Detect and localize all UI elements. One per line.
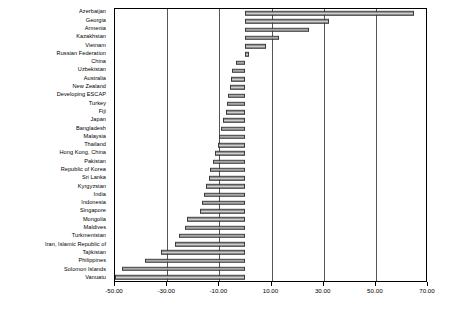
bar-row	[115, 34, 426, 42]
bar	[236, 60, 245, 64]
category-label: Vietnam	[0, 41, 110, 49]
bar	[210, 168, 245, 172]
bar-row	[115, 240, 426, 248]
bar-row	[115, 191, 426, 199]
bar-series	[115, 9, 426, 281]
axis-tick	[323, 282, 324, 286]
bar-row	[115, 75, 426, 83]
bar	[232, 69, 245, 73]
bar	[231, 77, 245, 81]
category-label: Tajikistan	[0, 249, 110, 257]
bar	[122, 267, 246, 271]
axis-tick-label: 30.00	[315, 287, 330, 294]
bar	[219, 135, 245, 139]
category-label: Singapore	[0, 207, 110, 215]
bar	[245, 19, 328, 23]
bar	[218, 143, 245, 147]
bar	[245, 44, 266, 48]
bar-row	[115, 199, 426, 207]
axis-tick-label: -30.00	[157, 287, 175, 294]
category-label: Mongolia	[0, 215, 110, 223]
category-label: Kazakhstan	[0, 33, 110, 41]
bar-row	[115, 67, 426, 75]
category-label: Vanuatu	[0, 274, 110, 282]
bar	[227, 102, 245, 106]
bar-row	[115, 174, 426, 182]
category-label: Uzbekistan	[0, 66, 110, 74]
bar-row	[115, 17, 426, 25]
category-label: Thailand	[0, 141, 110, 149]
bar	[204, 192, 246, 196]
bar	[179, 234, 246, 238]
category-label: Developing ESCAP	[0, 91, 110, 99]
bar	[245, 52, 249, 56]
bar	[206, 184, 245, 188]
category-label: Armenia	[0, 25, 110, 33]
bar-row	[115, 133, 426, 141]
category-label: Republic of Korea	[0, 166, 110, 174]
bar	[209, 176, 246, 180]
bar	[202, 201, 245, 205]
bar-chart: AzerbaijanGeorgiaArmeniaKazakhstanVietna…	[0, 0, 453, 315]
bar-row	[115, 42, 426, 50]
axis-tick	[375, 282, 376, 286]
bar	[175, 242, 245, 246]
bar-row	[115, 166, 426, 174]
bar	[221, 126, 246, 130]
category-label: Azerbaijan	[0, 8, 110, 16]
category-label: India	[0, 191, 110, 199]
bar-row	[115, 257, 426, 265]
bar	[230, 85, 246, 89]
bar	[187, 217, 246, 221]
bar-row	[115, 224, 426, 232]
category-axis-labels: AzerbaijanGeorgiaArmeniaKazakhstanVietna…	[0, 8, 110, 282]
bar-row	[115, 26, 426, 34]
category-label: China	[0, 58, 110, 66]
axis-tick-label: -50.00	[105, 287, 123, 294]
bar	[228, 93, 245, 97]
axis-tick	[218, 282, 219, 286]
bar	[115, 275, 245, 279]
bar-row	[115, 158, 426, 166]
plot-area	[114, 8, 427, 282]
bar-row	[115, 50, 426, 58]
category-label: Indonesia	[0, 199, 110, 207]
bar-row	[115, 248, 426, 256]
axis-tick-label: 50.00	[367, 287, 382, 294]
category-label: New Zealand	[0, 83, 110, 91]
bar-row	[115, 265, 426, 273]
bar-row	[115, 100, 426, 108]
bar-row	[115, 125, 426, 133]
bar-row	[115, 116, 426, 124]
bar	[245, 36, 279, 40]
bar	[213, 159, 246, 163]
bar	[215, 151, 245, 155]
category-label: Pakistan	[0, 157, 110, 165]
category-label: Philippines	[0, 257, 110, 265]
axis-tick-label: 70.00	[419, 287, 434, 294]
category-label: Solomon Islands	[0, 265, 110, 273]
bar	[185, 225, 245, 229]
bar	[223, 118, 245, 122]
bar-row	[115, 182, 426, 190]
bar-row	[115, 59, 426, 67]
category-label: Turkey	[0, 99, 110, 107]
category-label: Malaysia	[0, 132, 110, 140]
category-label: Japan	[0, 116, 110, 124]
bar	[245, 27, 309, 31]
bar-row	[115, 149, 426, 157]
category-label: Bangladesh	[0, 124, 110, 132]
bar-row	[115, 141, 426, 149]
bar-row	[115, 215, 426, 223]
bar-row	[115, 108, 426, 116]
category-label: Turkmenistan	[0, 232, 110, 240]
category-label: Russian Federation	[0, 49, 110, 57]
axis-tick	[427, 282, 428, 286]
category-label: Georgia	[0, 16, 110, 24]
axis-tick	[114, 282, 115, 286]
category-label: Hong Kong, China	[0, 149, 110, 157]
category-label: Sri Lanka	[0, 174, 110, 182]
category-label: Iran, Islamic Republic of	[0, 240, 110, 248]
axis-tick-label: -10.00	[210, 287, 228, 294]
category-label: Maldives	[0, 224, 110, 232]
